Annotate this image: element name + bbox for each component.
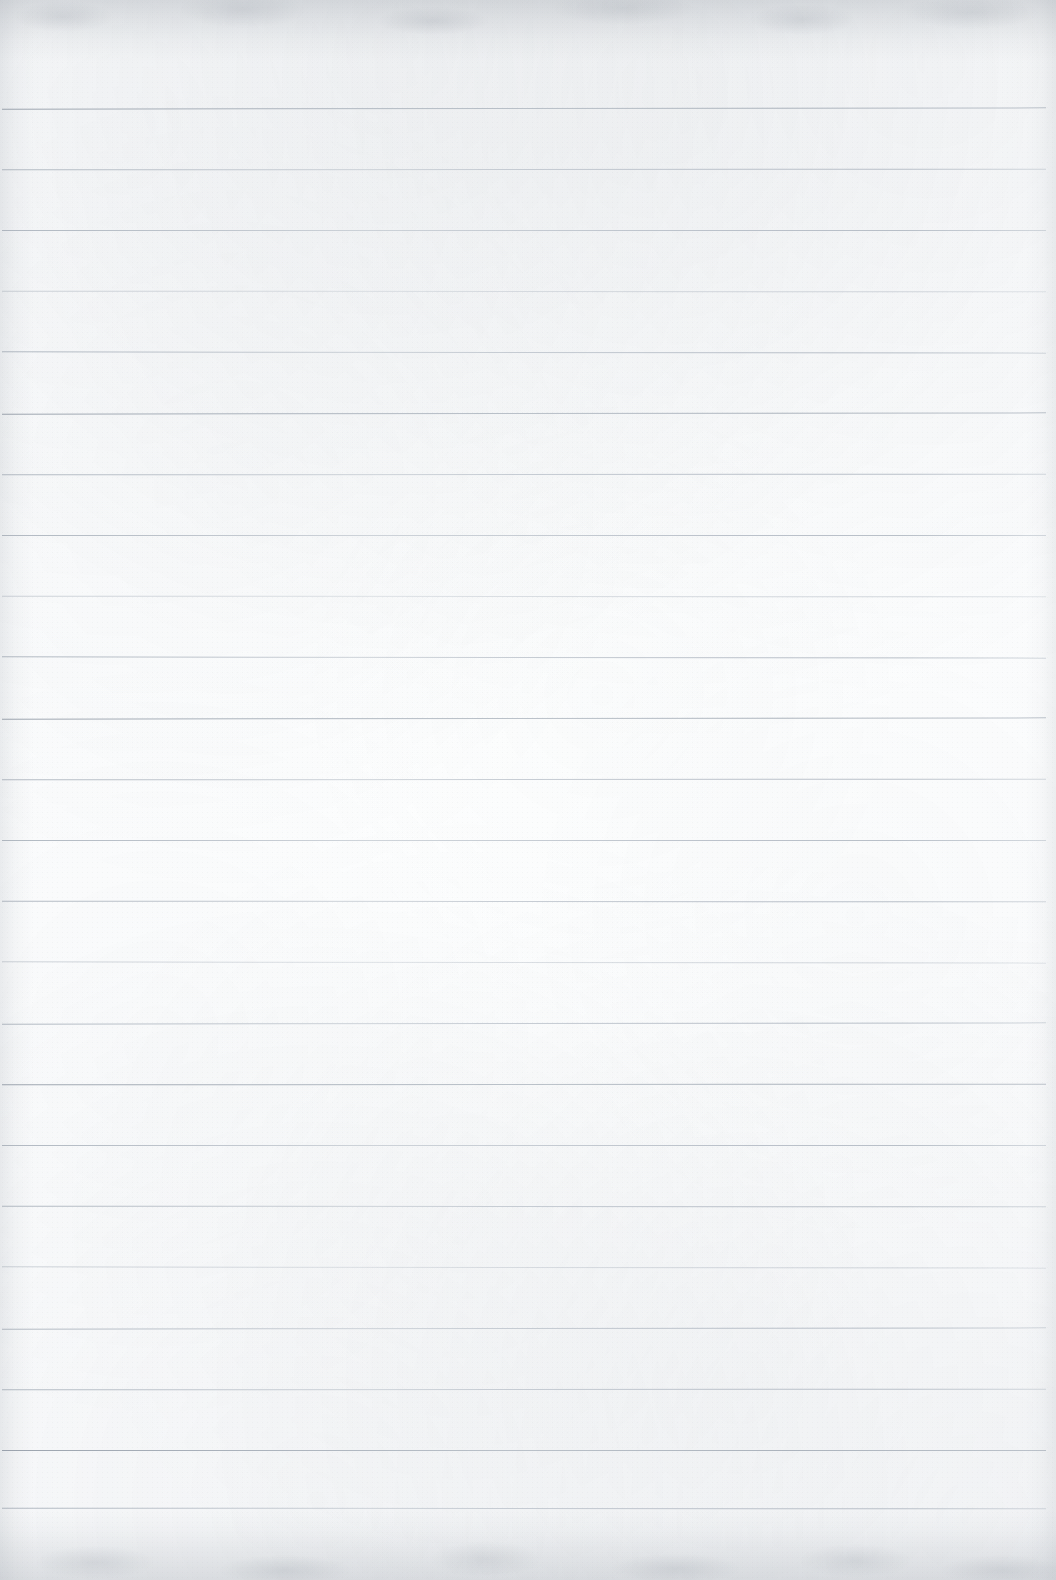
rule-line: [2, 535, 1046, 536]
rule-line: [2, 1022, 1046, 1024]
rule-line: [2, 901, 1046, 903]
rule-line: [2, 1327, 1046, 1329]
rule-line: [2, 474, 1046, 476]
top-edge-mottle: [0, 0, 1056, 70]
rule-line: [2, 961, 1046, 963]
ruled-lines-layer: [0, 0, 1056, 1580]
rule-line: [2, 230, 1046, 231]
rule-line: [2, 656, 1046, 658]
rule-line: [2, 412, 1046, 414]
rule-line: [2, 1266, 1046, 1268]
rule-line: [2, 1389, 1046, 1391]
rule-line: [2, 840, 1046, 841]
notebook-page: [0, 0, 1056, 1580]
rule-line: [2, 351, 1046, 353]
rule-line: [2, 717, 1046, 719]
bottom-edge-mottle: [0, 1500, 1056, 1580]
rule-line: [2, 779, 1046, 781]
rule-line: [2, 107, 1046, 109]
rule-line: [2, 596, 1046, 598]
rule-line: [2, 169, 1046, 171]
left-edge-shadow: [0, 0, 34, 1580]
rule-line: [2, 1206, 1046, 1208]
rule-line: [2, 1145, 1046, 1146]
rule-line: [2, 1084, 1046, 1086]
rule-line: [2, 1450, 1046, 1451]
rule-line: [2, 291, 1046, 293]
right-edge-shadow: [1026, 0, 1056, 1580]
